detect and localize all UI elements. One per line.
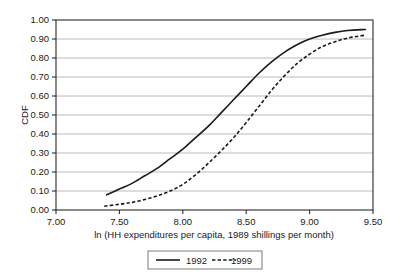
x-tick-label: 7.50: [110, 216, 129, 227]
x-tick-label: 7.00: [47, 216, 66, 227]
y-axis-title: CDF: [19, 105, 30, 125]
legend-label-1999: 1999: [231, 255, 252, 266]
x-tick-label: 8.00: [174, 216, 193, 227]
chart-figure: 0.000.100.200.300.400.500.600.700.800.90…: [0, 0, 400, 276]
y-tick-label: 0.50: [31, 109, 50, 120]
cdf-line-chart: 0.000.100.200.300.400.500.600.700.800.90…: [0, 0, 400, 276]
y-tick-label: 0.40: [31, 128, 50, 139]
x-axis-title: ln (HH expenditures per capita, 1989 shi…: [94, 229, 334, 240]
y-tick-label: 0.80: [31, 52, 50, 63]
y-tick-label: 0.70: [31, 71, 50, 82]
y-tick-label: 0.30: [31, 147, 50, 158]
y-tick-label: 0.00: [31, 204, 50, 215]
legend-label-1992: 1992: [186, 255, 207, 266]
chart-legend: 1992 1999: [148, 251, 262, 269]
y-tick-label: 0.10: [31, 185, 50, 196]
x-tick-label: 9.00: [300, 216, 319, 227]
y-tick-label: 0.60: [31, 90, 50, 101]
y-tick-label: 1.00: [31, 14, 50, 25]
x-tick-label: 8.50: [237, 216, 256, 227]
x-tick-label: 9.50: [364, 216, 383, 227]
y-tick-label: 0.20: [31, 166, 50, 177]
y-tick-label: 0.90: [31, 33, 50, 44]
